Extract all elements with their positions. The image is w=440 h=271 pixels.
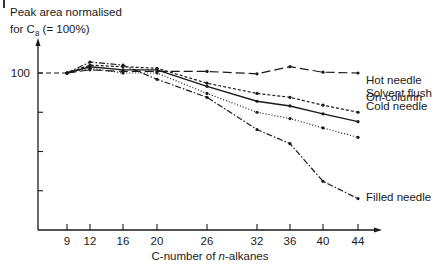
data-point-marker: [356, 197, 359, 200]
line-chart: Peak area normalised for C8 (= 100%) 100…: [0, 0, 440, 271]
data-point-marker: [288, 65, 291, 68]
data-point-marker: [288, 142, 291, 145]
y-axis-label: Peak area normalised for C8 (= 100%): [10, 6, 122, 38]
data-point-marker: [205, 92, 208, 95]
data-point-marker: [205, 82, 208, 85]
data-point-marker: [205, 96, 208, 99]
inline-legend: On-columnHot needleSolvent flushCold nee…: [366, 74, 432, 203]
legend-label-solvent-flush: Solvent flush: [366, 87, 432, 99]
data-point-marker: [121, 64, 124, 67]
data-point-marker: [288, 96, 291, 99]
x-tick-label: 44: [352, 235, 365, 247]
svg-text:for C8 (= 100%): for C8 (= 100%): [10, 23, 90, 38]
x-tick-label: 40: [317, 235, 330, 247]
data-point-marker: [321, 71, 324, 74]
data-point-marker: [255, 128, 258, 131]
data-point-marker: [88, 60, 91, 63]
y-axis-arrow-icon: [36, 38, 41, 46]
data-point-marker: [356, 111, 359, 114]
data-point-marker: [288, 104, 291, 107]
data-point-marker: [155, 78, 158, 81]
x-axis-arrow-icon: [374, 228, 382, 233]
data-point-marker: [121, 71, 124, 74]
series-line-solvent-flush: [67, 67, 358, 122]
data-point-marker: [121, 68, 124, 71]
svg-text:Peak area normalised: Peak area normalised: [10, 6, 122, 18]
x-tick-label: 26: [201, 235, 214, 247]
data-point-marker: [356, 120, 359, 123]
series-lines: [38, 60, 360, 200]
data-point-marker: [155, 71, 158, 74]
data-point-marker: [321, 112, 324, 115]
x-tick-label: 36: [284, 235, 297, 247]
data-point-marker: [155, 68, 158, 71]
data-point-marker: [205, 85, 208, 88]
legend-label-filled-needle: Filled needle: [366, 191, 431, 203]
data-point-marker: [321, 104, 324, 107]
series-line-filled-needle: [67, 62, 358, 199]
legend-label-cold-needle: Cold needle: [366, 100, 427, 112]
data-point-marker: [321, 180, 324, 183]
data-point-marker: [288, 117, 291, 120]
x-tick-label: 20: [151, 235, 164, 247]
data-point-marker: [255, 72, 258, 75]
series-line-on-column: [67, 67, 358, 74]
legend-label-hot-needle: Hot needle: [366, 74, 422, 86]
data-point-marker: [255, 100, 258, 103]
x-ticks: 91216202632364044: [64, 224, 365, 247]
data-point-marker: [65, 71, 68, 74]
data-point-marker: [88, 67, 91, 70]
x-axis-label: C-number of n-alkanes: [152, 250, 269, 262]
x-tick-label: 32: [251, 235, 264, 247]
y-tick-label: 100: [11, 67, 30, 79]
data-point-marker: [321, 126, 324, 129]
data-point-marker: [205, 70, 208, 73]
data-point-marker: [255, 92, 258, 95]
data-point-marker: [356, 71, 359, 74]
data-point-marker: [356, 136, 359, 139]
data-point-marker: [255, 111, 258, 114]
x-tick-label: 12: [84, 235, 97, 247]
x-tick-label: 16: [117, 235, 130, 247]
x-tick-label: 9: [64, 235, 70, 247]
